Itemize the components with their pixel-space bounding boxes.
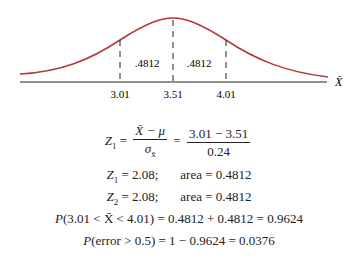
z1-result: Z1 = 2.08;area = 0.4812 xyxy=(0,167,358,185)
normal-curve xyxy=(20,18,328,77)
z-value: = 2.08; xyxy=(121,167,158,182)
subscript: 1 xyxy=(114,175,119,185)
tick-label-3.01: 3.01 xyxy=(110,88,129,100)
numeric-fraction: 3.01 − 3.51 0.24 xyxy=(187,126,250,159)
error-expression: (error > 0.5) = 1 − 0.9624 = 0.0376 xyxy=(91,233,275,248)
z-symbol: Z xyxy=(105,133,112,148)
normal-distribution-diagram: .4812 .4812 3.01 3.51 4.01 X̄ xyxy=(0,0,358,110)
probability-line: P(3.01 < X̄ < 4.01) = 0.4812 + 0.4812 = … xyxy=(0,211,358,227)
subscript: 1 xyxy=(112,141,117,151)
region-label-left: .4812 xyxy=(135,57,160,69)
p-symbol: P xyxy=(55,211,63,226)
z2-result: Z2 = 2.08;area = 0.4812 xyxy=(0,189,358,207)
area-value: area = 0.4812 xyxy=(180,167,251,182)
probability-expression: (3.01 < X̄ < 4.01) = 0.4812 + 0.4812 = 0… xyxy=(63,211,303,226)
z-symbol: Z xyxy=(106,189,113,204)
denominator: σx̄ xyxy=(133,140,167,162)
tick-label-3.51: 3.51 xyxy=(163,88,182,100)
tick-label-4.01: 4.01 xyxy=(216,88,235,100)
z-symbol: Z xyxy=(106,167,113,182)
error-line: P(error > 0.5) = 1 − 0.9624 = 0.0376 xyxy=(0,233,358,249)
axis-label: X̄ xyxy=(334,75,343,89)
region-label-right: .4812 xyxy=(187,57,212,69)
numerator-values: 3.01 − 3.51 xyxy=(187,126,250,143)
sigma-subscript: x̄ xyxy=(151,149,156,159)
standardize-fraction: X̄ − μ σx̄ xyxy=(133,123,167,162)
denominator-value: 0.24 xyxy=(187,143,250,159)
subscript: 2 xyxy=(114,197,119,207)
z-value: = 2.08; xyxy=(121,189,158,204)
z1-definition: Z1 = X̄ − μ σx̄ = 3.01 − 3.51 0.24 xyxy=(0,123,358,162)
numerator: X̄ − μ xyxy=(133,123,167,140)
area-value: area = 0.4812 xyxy=(180,189,251,204)
